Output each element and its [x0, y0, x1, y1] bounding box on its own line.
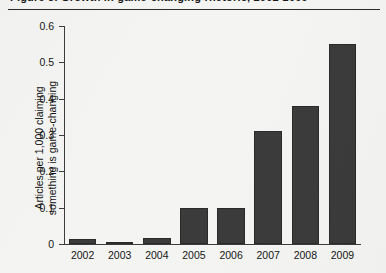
- y-axis-tick-label: 0.5: [18, 56, 56, 68]
- y-axis-title-line1: Articles per 1,000 claiming: [33, 43, 46, 253]
- bar-series: [64, 26, 361, 244]
- bar[interactable]: [106, 242, 133, 244]
- y-axis-tick-label: 0: [18, 238, 56, 250]
- bar-slot: [180, 26, 207, 244]
- y-axis-tick-label: 0.2: [18, 165, 56, 177]
- y-axis-tick-label: 0.6: [18, 20, 56, 32]
- bar[interactable]: [217, 208, 244, 244]
- chart-page: Figure 3. Growth in game-changing rhetor…: [0, 0, 386, 273]
- bar[interactable]: [254, 131, 281, 244]
- y-axis-tick: [59, 244, 65, 245]
- x-axis-tick-label: 2009: [324, 249, 361, 261]
- bar-slot: [329, 26, 356, 244]
- y-axis-tick-label: 0.4: [18, 93, 56, 105]
- y-axis-tick-label: 0.1: [18, 202, 56, 214]
- bar[interactable]: [292, 106, 319, 244]
- x-axis-tick-label: 2002: [64, 249, 101, 261]
- bar-slot: [69, 26, 96, 244]
- bar-slot: [217, 26, 244, 244]
- x-axis-tick-label: 2003: [101, 249, 138, 261]
- x-axis-tick-label: 2006: [213, 249, 250, 261]
- x-axis-tick-label: 2005: [175, 249, 212, 261]
- x-axis-tick-label: 2007: [250, 249, 287, 261]
- bar[interactable]: [180, 208, 207, 244]
- bar-slot: [254, 26, 281, 244]
- bar-chart: Articles per 1,000 claiming something is…: [0, 0, 386, 273]
- bar-slot: [292, 26, 319, 244]
- x-axis-tick-label: 2004: [138, 249, 175, 261]
- bar-slot: [143, 26, 170, 244]
- y-axis-tick-label: 0.3: [18, 129, 56, 141]
- bar[interactable]: [69, 239, 96, 244]
- bar-slot: [106, 26, 133, 244]
- bar[interactable]: [329, 44, 356, 244]
- y-axis-title-line2: something is game-changing: [46, 43, 59, 253]
- x-axis-tick-label: 2008: [287, 249, 324, 261]
- bar[interactable]: [143, 238, 170, 244]
- y-axis-title: Articles per 1,000 claiming something is…: [33, 43, 59, 253]
